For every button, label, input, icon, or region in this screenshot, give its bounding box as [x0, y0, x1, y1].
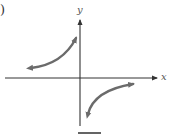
- y-axis-label: y: [77, 5, 83, 15]
- curve-branch-quadrant-4: [88, 84, 133, 114]
- curve-branch-quadrant-2: [31, 38, 76, 68]
- hyperbola-figure: ) y x: [0, 0, 171, 140]
- x-axis-label: x: [161, 72, 167, 82]
- plot-canvas: [0, 0, 171, 140]
